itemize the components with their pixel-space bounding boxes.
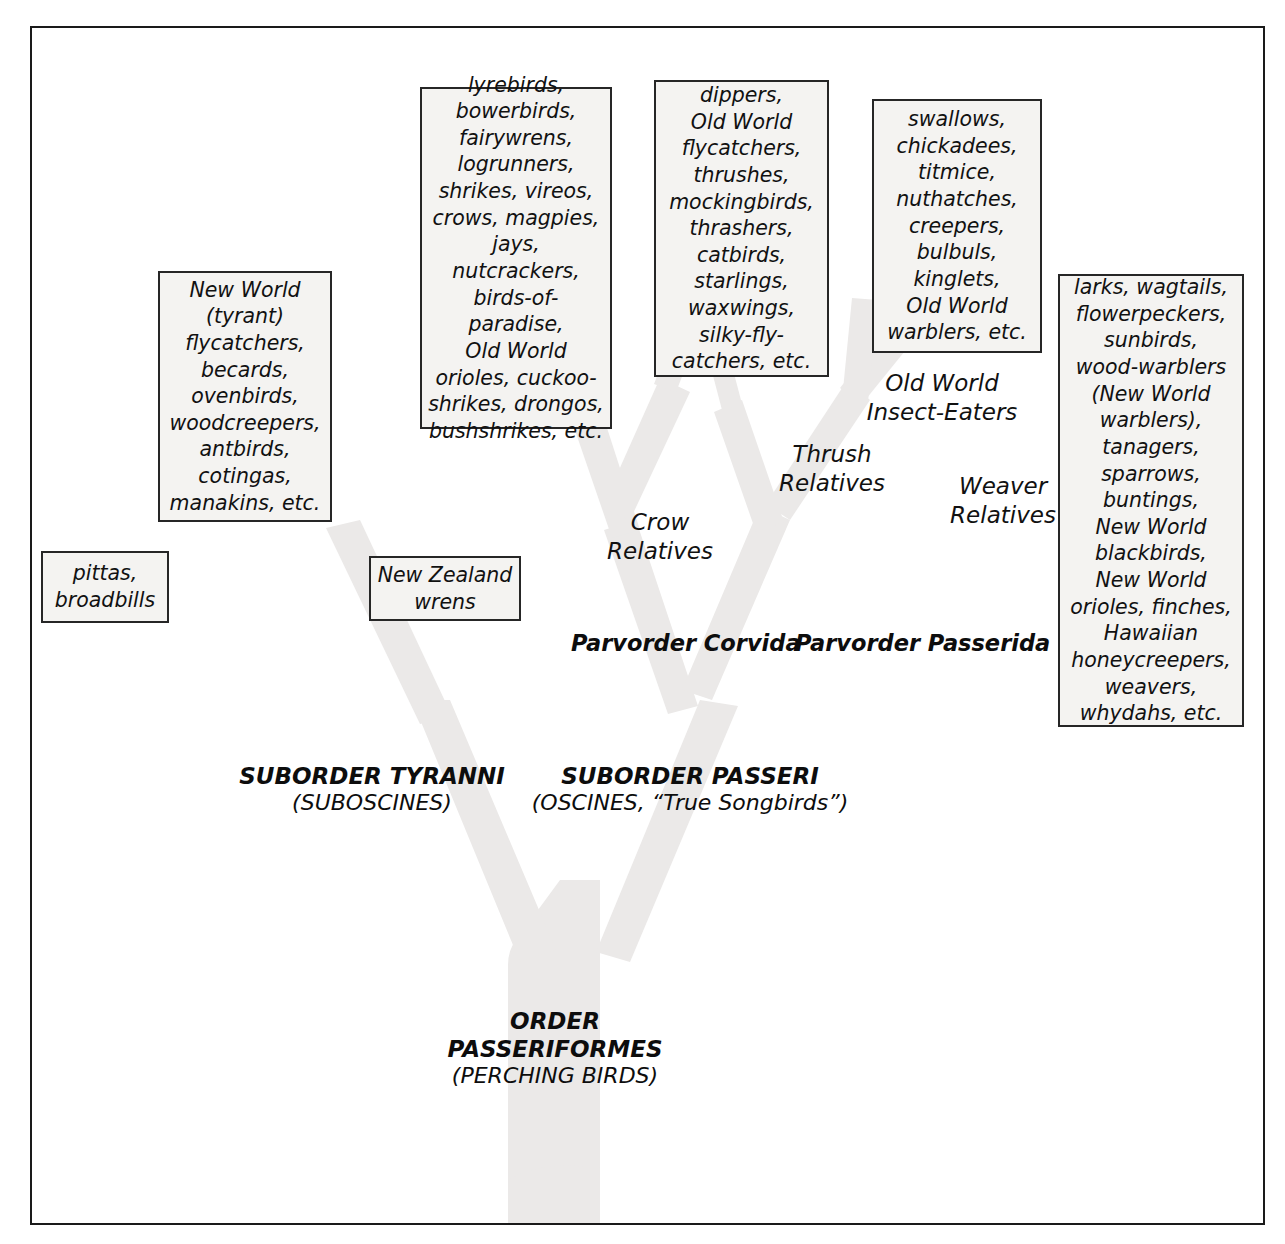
rank-sub-text: (PERCHING BIRDS)	[402, 1063, 708, 1090]
rank-label-suborder-passeri: SUBORDER PASSERI (OSCINES, “True Songbir…	[516, 762, 864, 817]
rank-label-suborder-tyranni: SUBORDER TYRANNI (SUBOSCINES)	[222, 762, 522, 817]
rank-label-order-passeriformes: ORDER PASSERIFORMES (PERCHING BIRDS)	[402, 1007, 708, 1090]
taxon-box-old-world-insect-eaters: swallows, chickadees, titmice, nuthatche…	[872, 99, 1042, 353]
rank-main-text: SUBORDER PASSERI	[516, 762, 864, 790]
taxon-box-text: dippers, Old World flycatchers, thrushes…	[662, 82, 821, 375]
taxon-box-crow-relatives: lyrebirds, bowerbirds, fairywrens, logru…	[420, 87, 612, 429]
taxon-box-new-zealand-wrens: New Zealand wrens	[369, 556, 521, 621]
parvorder-label-passerida: Parvorder Passerida	[795, 630, 1050, 656]
rank-sub-text: (OSCINES, “True Songbirds”)	[516, 790, 864, 817]
group-label-old-world-insect-eaters: Old World Insect-Eaters	[842, 369, 1042, 427]
group-label-crow-relatives: Crow Relatives	[580, 508, 740, 566]
taxon-box-text: New World (tyrant) flycatchers, becards,…	[166, 277, 324, 517]
taxon-box-text: New Zealand wrens	[377, 562, 513, 615]
parvorder-label-corvida: Parvorder Corvida	[571, 630, 801, 656]
taxon-box-text: lyrebirds, bowerbirds, fairywrens, logru…	[428, 72, 604, 445]
taxon-box-weaver-relatives: larks, wagtails, flowerpeckers, sunbirds…	[1058, 274, 1244, 727]
taxon-box-thrush-relatives: dippers, Old World flycatchers, thrushes…	[654, 80, 829, 377]
group-label-weaver-relatives: Weaver Relatives	[928, 472, 1078, 530]
rank-main-text: SUBORDER TYRANNI	[222, 762, 522, 790]
rank-main-text: ORDER PASSERIFORMES	[402, 1007, 708, 1063]
taxon-box-pittas-broadbills: pittas, broadbills	[41, 551, 169, 623]
taxon-box-text: pittas, broadbills	[49, 560, 161, 613]
group-label-thrush-relatives: Thrush Relatives	[752, 440, 912, 498]
rank-sub-text: (SUBOSCINES)	[222, 790, 522, 817]
taxon-box-text: swallows, chickadees, titmice, nuthatche…	[880, 106, 1034, 346]
taxon-box-new-world-tyrant-flycatchers: New World (tyrant) flycatchers, becards,…	[158, 271, 332, 522]
diagram-page: pittas, broadbills New World (tyrant) fl…	[0, 0, 1285, 1244]
taxon-box-text: larks, wagtails, flowerpeckers, sunbirds…	[1066, 274, 1236, 727]
